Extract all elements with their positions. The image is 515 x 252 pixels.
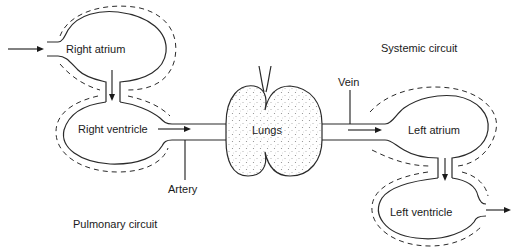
inflow-arrow-icon: [8, 46, 44, 52]
valve-arrow-icon: [442, 158, 448, 181]
pulmonary-flow-arrow-icon: [158, 126, 191, 132]
lungs: [226, 66, 322, 176]
label-right-ventricle: Right ventricle: [78, 124, 148, 135]
label-right-atrium: Right atrium: [66, 44, 125, 55]
valve-arrow-icon: [109, 70, 115, 101]
label-left-atrium: Left atrium: [408, 125, 460, 136]
label-systemic-circuit: Systemic circuit: [381, 43, 457, 54]
label-vein: Vein: [338, 77, 359, 88]
systemic-flow-arrow-icon: [348, 127, 382, 133]
label-lungs: Lungs: [252, 125, 282, 136]
label-left-ventricle: Left ventricle: [390, 207, 452, 218]
label-artery: Artery: [168, 184, 197, 195]
label-pulmonary-circuit: Pulmonary circuit: [73, 219, 157, 230]
outflow-arrow-icon: [486, 207, 511, 213]
